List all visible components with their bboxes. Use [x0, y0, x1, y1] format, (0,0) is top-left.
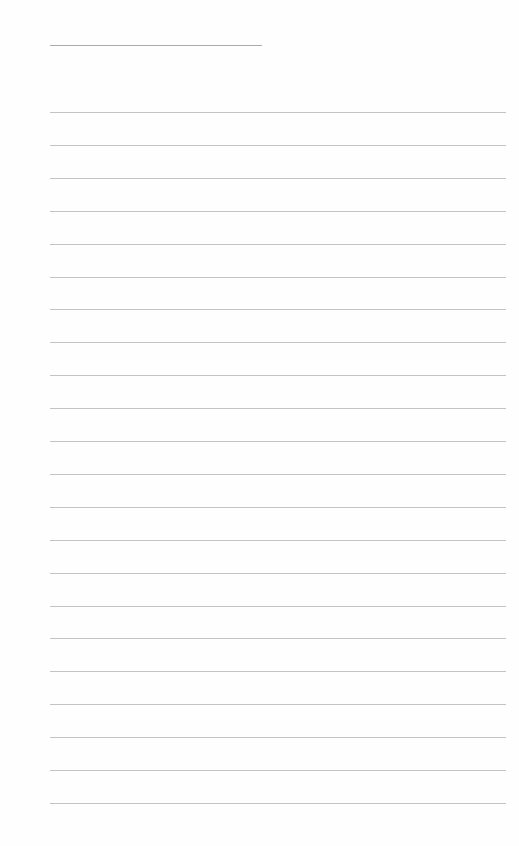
ruled-line: [50, 573, 506, 574]
lined-paper-page: [0, 0, 519, 846]
title-line: [50, 45, 262, 46]
ruled-line: [50, 474, 506, 475]
ruled-line: [50, 178, 506, 179]
ruled-line: [50, 375, 506, 376]
ruled-line: [50, 737, 506, 738]
ruled-line: [50, 408, 506, 409]
ruled-line: [50, 606, 506, 607]
ruled-line: [50, 145, 506, 146]
ruled-line: [50, 244, 506, 245]
ruled-line: [50, 342, 506, 343]
ruled-line: [50, 704, 506, 705]
ruled-line: [50, 507, 506, 508]
ruled-line: [50, 671, 506, 672]
ruled-line: [50, 309, 506, 310]
ruled-line: [50, 112, 506, 113]
ruled-line: [50, 770, 506, 771]
ruled-line: [50, 803, 506, 804]
ruled-line: [50, 638, 506, 639]
ruled-line: [50, 441, 506, 442]
ruled-line: [50, 211, 506, 212]
ruled-line: [50, 277, 506, 278]
ruled-line: [50, 540, 506, 541]
